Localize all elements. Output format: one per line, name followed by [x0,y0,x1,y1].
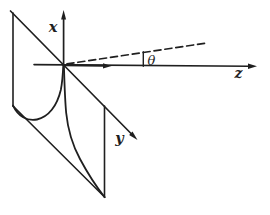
y-axis-label: y [114,129,125,146]
figure-canvas: x y z θ [0,0,270,215]
z-axis-label: z [234,65,244,81]
x-axis-label: x [48,18,58,35]
plane-parallelogram [13,13,105,197]
y-axis-line [11,11,132,134]
x-axis-arrowhead [61,10,66,20]
vector-arrowhead [103,63,112,68]
physics-diagram: x y z θ [0,0,270,215]
dashed-direction-line [67,43,208,64]
curve-left-branch [13,65,63,120]
angle-label: θ [148,53,156,68]
diagram-ink: x y z θ [11,10,258,197]
vector-arrow-shaft [64,65,104,66]
z-axis-arrowhead [248,64,257,69]
